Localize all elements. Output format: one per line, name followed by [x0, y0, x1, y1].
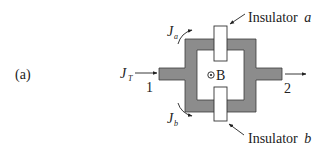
- current-a-symbol: J: [167, 24, 174, 39]
- current-a-subscript: a: [174, 32, 178, 41]
- insulator-b: [214, 87, 227, 121]
- terminal-2-label: 2: [284, 81, 291, 96]
- diagram-canvas: (a) B J T 1 2 J a J b Insulator a: [0, 0, 324, 154]
- magnetic-field-label: B: [216, 68, 225, 83]
- current-total-subscript: T: [128, 74, 133, 83]
- leader-arrow-insulator-b-icon: [229, 124, 244, 135]
- insulator-b-label: Insulator b: [248, 131, 311, 146]
- terminal-1-label: 1: [146, 80, 153, 95]
- current-b-subscript: b: [174, 119, 178, 128]
- magnetic-field-out-of-page-icon: [208, 72, 214, 78]
- conductor-ring-diagram: (a) B J T 1 2 J a J b Insulator a: [0, 0, 324, 154]
- insulator-a: [214, 26, 227, 61]
- insulator-a-label: Insulator a: [248, 10, 311, 25]
- current-b-symbol: J: [167, 111, 174, 126]
- panel-label: (a): [15, 67, 31, 83]
- current-total-symbol: J: [120, 66, 127, 81]
- leader-arrow-insulator-a-icon: [230, 14, 245, 24]
